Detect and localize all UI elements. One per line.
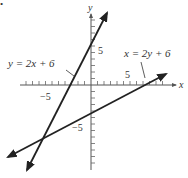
x-axis-ticks xyxy=(26,81,163,85)
y-tick-label-negative: −5 xyxy=(72,122,83,133)
line-x-equals-2y-plus-6 xyxy=(8,74,166,157)
y-axis-label: y xyxy=(87,2,93,13)
pointer-y-2x-6 xyxy=(66,70,74,76)
x-tick-label-negative: −5 xyxy=(40,91,51,102)
x-axis-label: x xyxy=(178,79,184,90)
linear-equations-graph: • x y xyxy=(0,0,188,178)
equation-label-y-2x-6: y = 2x + 6 xyxy=(7,57,55,69)
pointer-x-2y-6 xyxy=(141,62,145,78)
figure-marker: • xyxy=(0,0,3,9)
equation-label-x-2y-6: x = 2y + 6 xyxy=(123,47,171,59)
y-tick-label-positive: 5 xyxy=(98,45,103,56)
x-tick-label-positive: 5 xyxy=(125,69,130,80)
